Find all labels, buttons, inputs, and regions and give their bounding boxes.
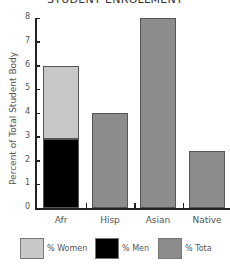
x-tick-label: Asian (133, 215, 183, 225)
y-tick-label: 5 (18, 83, 30, 92)
bar-native-total (189, 151, 225, 208)
legend-swatch-women (20, 238, 44, 259)
y-tick (35, 89, 40, 91)
legend-label-women: % Women (47, 244, 87, 253)
y-axis-label: Percent of Total Student Body (8, 55, 18, 185)
y-tick (35, 113, 40, 115)
legend-swatch-total (158, 238, 182, 259)
y-tick-label: 1 (18, 178, 30, 187)
y-tick-label: 0 (18, 202, 30, 211)
y-tick-label: 4 (18, 107, 30, 116)
legend-item-total: % Tota (158, 238, 212, 259)
y-tick (35, 208, 40, 210)
y-tick (35, 184, 40, 186)
y-tick-label: 8 (18, 12, 30, 21)
bar-afr-men (43, 139, 79, 208)
bar-asian-total (140, 18, 176, 208)
y-tick (35, 65, 40, 67)
y-tick (35, 160, 40, 162)
y-tick-label: 3 (18, 131, 30, 140)
x-tick (183, 203, 185, 208)
chart-title: STUDENT ENROLLMENT (0, 0, 230, 6)
legend-label-total: % Tota (185, 244, 212, 253)
y-tick (35, 41, 40, 43)
bar-afr-women (43, 66, 79, 140)
legend-item-men: % Men (95, 238, 149, 259)
y-tick (35, 136, 40, 138)
y-tick-label: 2 (18, 155, 30, 164)
x-tick (134, 203, 136, 208)
x-tick-label: Hisp (85, 215, 135, 225)
legend-label-men: % Men (122, 244, 149, 253)
legend-swatch-men (95, 238, 119, 259)
bar-hisp-total (92, 113, 128, 208)
y-tick-label: 7 (18, 36, 30, 45)
y-tick-label: 6 (18, 60, 30, 69)
x-tick-label: Afr (36, 215, 86, 225)
x-tick-label: Native (182, 215, 230, 225)
legend-item-women: % Women (20, 238, 87, 259)
x-tick (86, 203, 88, 208)
legend: % Women % Men % Tota (0, 238, 230, 264)
y-tick (35, 18, 40, 20)
x-axis (35, 208, 230, 210)
